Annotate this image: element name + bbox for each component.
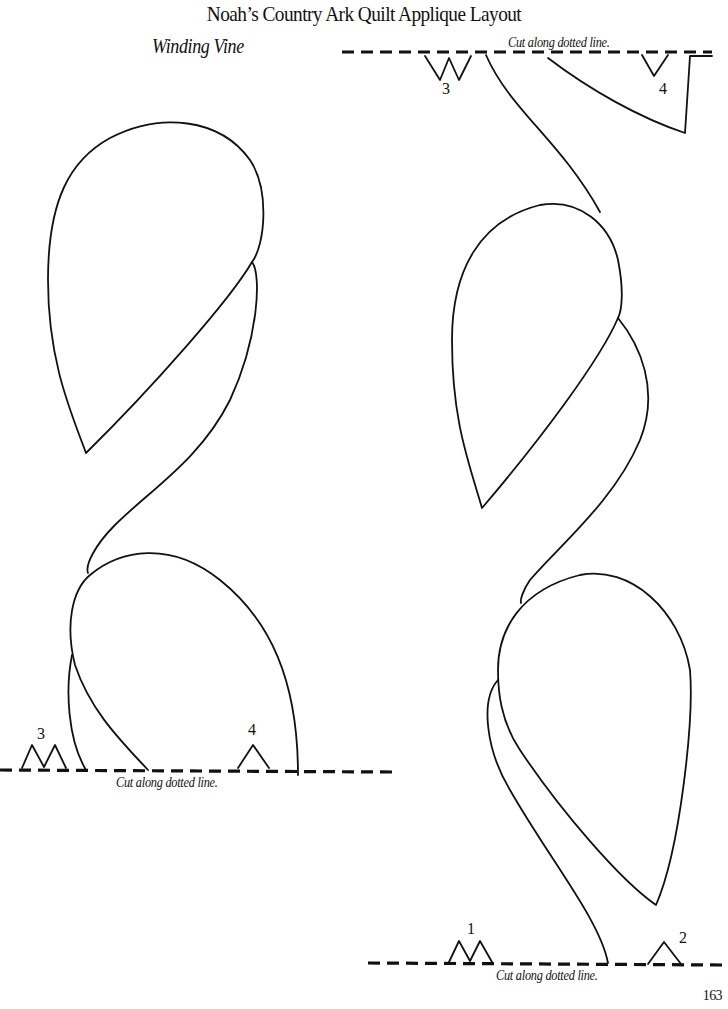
- bottom-dotted-cut-line: [368, 963, 722, 965]
- left-lower-leaf: [70, 553, 298, 775]
- right-middle-vine: [521, 318, 648, 603]
- page-number: 163: [703, 988, 722, 1004]
- left-dotted-cut-line: [0, 770, 395, 772]
- left-upper-leaf: [48, 122, 263, 453]
- notch-1-bottom: [449, 941, 492, 962]
- right-lower-leaf: [498, 574, 691, 905]
- notch-4-left: [238, 745, 269, 768]
- left-cut-label: Cut along dotted line.: [116, 775, 218, 791]
- left-middle-vine: [87, 262, 256, 573]
- notch-label-3-left: 3: [37, 725, 45, 743]
- right-upper-leaf: [452, 204, 622, 508]
- notch-label-2-bottom: 2: [679, 929, 687, 947]
- top-right-leaf-remnant: [548, 56, 712, 133]
- right-upper-stem: [486, 55, 600, 212]
- notch-label-4-top: 4: [659, 80, 667, 98]
- notch-label-4-left: 4: [248, 721, 256, 739]
- notch-2-bottom: [648, 942, 681, 964]
- top-cut-label: Cut along dotted line.: [508, 35, 610, 51]
- notch-4-top: [642, 55, 668, 76]
- winding-vine-pattern: [0, 0, 728, 1009]
- notch-3-left: [22, 745, 66, 768]
- bottom-cut-label: Cut along dotted line.: [496, 968, 598, 984]
- notch-3-top: [425, 56, 471, 80]
- notch-label-1-bottom: 1: [467, 920, 475, 938]
- notch-label-3-top: 3: [442, 80, 450, 98]
